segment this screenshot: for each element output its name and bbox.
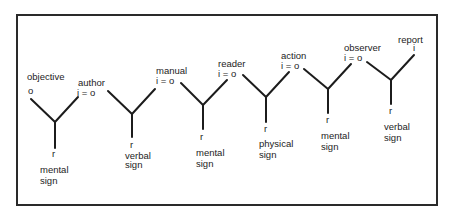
triad-left-arm: [31, 99, 55, 122]
triad-left-arm: [108, 91, 132, 114]
final-interpretant-symbol: i: [413, 42, 415, 53]
semiotic-chain-diagram: objective o r mental sign author i = o r…: [0, 0, 451, 218]
interpretant-object-symbol: i = o: [77, 87, 95, 98]
triad-right-arm: [203, 80, 227, 105]
sign-type-line2: sign: [40, 175, 57, 186]
object-symbol: o: [28, 85, 33, 96]
triad-left-arm: [181, 83, 203, 105]
interpretant-object-symbol: i = o: [156, 75, 174, 86]
triad-node-reader: reader i = o r physical sign: [218, 58, 293, 160]
sign-type-line1: mental: [321, 130, 350, 141]
interpretant-object-symbol: i = o: [344, 52, 362, 63]
triad-node-author: author i = o r verbal sign: [77, 77, 155, 170]
interpretant-object-symbol: i = o: [218, 68, 236, 79]
triad-right-arm: [132, 89, 155, 114]
representamen-symbol: r: [52, 148, 55, 159]
sign-type-line2: sign: [384, 132, 401, 143]
triad-node-manual: manual i = o r mental sign: [156, 65, 227, 169]
triad-right-arm: [55, 97, 78, 122]
representamen-symbol: r: [264, 123, 267, 134]
triad-left-arm: [304, 69, 328, 89]
triad-left-arm: [367, 62, 391, 80]
sign-type-line1: mental: [40, 164, 69, 175]
sign-type-line1: verbal: [384, 121, 410, 132]
triad-node-action: action i = o r mental sign: [281, 50, 351, 152]
sign-type-line2: sign: [321, 141, 338, 152]
interpretant-object-symbol: i = o: [281, 60, 299, 71]
triad-right-arm: [328, 64, 351, 89]
triad-right-arm: [391, 55, 414, 80]
representamen-symbol: r: [389, 105, 392, 116]
sign-type-line1: mental: [196, 147, 225, 158]
representamen-symbol: r: [130, 139, 133, 150]
sign-type-line2: sign: [125, 159, 142, 170]
sign-type-line2: sign: [259, 149, 276, 160]
triad-right-arm: [266, 72, 289, 97]
sign-type-line2: sign: [196, 158, 213, 169]
triad-node-observer: observer i = o report i r verbal sign: [344, 34, 423, 143]
triad-node-objective: objective o r mental sign: [27, 71, 78, 186]
sign-type-line1: physical: [259, 138, 293, 149]
representamen-symbol: r: [200, 131, 203, 142]
object-label: objective: [27, 71, 65, 82]
representamen-symbol: r: [326, 114, 329, 125]
final-interpretant-label: report: [398, 34, 423, 45]
triad-left-arm: [243, 75, 266, 97]
